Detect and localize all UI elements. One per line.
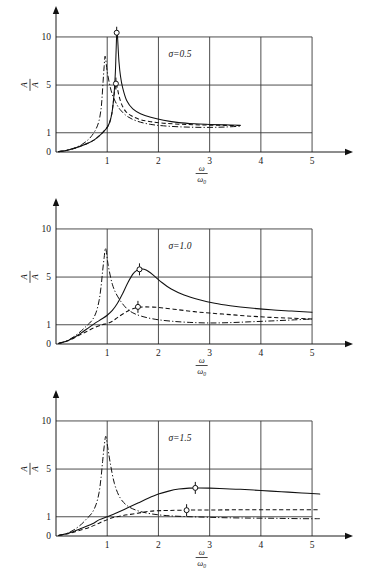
x-axis-label-denominator: ω0 xyxy=(197,366,206,377)
chart-svg: 0151012345ωω0AAσ=1.5 xyxy=(0,384,367,575)
x-tick-label-4: 4 xyxy=(258,540,263,550)
y-axis-arrow xyxy=(53,390,59,398)
y-axis-label: AA xyxy=(20,79,41,91)
x-axis-label: ωω0 xyxy=(196,163,208,185)
y-axis-label-numerator: A xyxy=(20,81,30,88)
x-axis-arrow xyxy=(345,341,353,347)
sigma-annotation: σ=1.0 xyxy=(168,241,191,251)
curve-solid xyxy=(59,32,241,151)
x-tick-label-2: 2 xyxy=(156,348,161,358)
x-tick-label-5: 5 xyxy=(310,348,315,358)
sigma-annotation: σ=1.5 xyxy=(168,433,191,443)
chart-panel-sigma-1.5: 0151012345ωω0AAσ=1.5 xyxy=(0,384,367,575)
x-tick-label-5: 5 xyxy=(310,156,315,166)
marker-point-1 xyxy=(184,508,189,513)
y-axis-label: AA xyxy=(20,271,41,283)
x-tick-labels: 12345 xyxy=(105,156,315,166)
y-tick-labels: 01510 xyxy=(42,32,52,157)
markers-group xyxy=(184,482,198,516)
x-axis-label: ωω0 xyxy=(196,547,208,569)
y-axis-label-numerator: A xyxy=(20,465,30,472)
y-axis-label-numerator: A xyxy=(20,273,30,280)
x-tick-label-3: 3 xyxy=(207,540,212,550)
curves-group xyxy=(59,436,320,535)
y-tick-label-10: 10 xyxy=(42,224,52,234)
y-tick-label-1: 1 xyxy=(46,320,51,330)
curve-dash-dot xyxy=(59,56,241,151)
y-tick-label-0: 0 xyxy=(46,147,51,157)
x-axis-arrow xyxy=(345,149,353,155)
curve-dashed xyxy=(59,510,320,536)
y-axis-label-denominator: A xyxy=(30,273,40,280)
y-tick-label-10: 10 xyxy=(42,416,52,426)
y-tick-label-1: 1 xyxy=(46,128,51,138)
chart-panel-sigma-0.5: 0151012345ωω0AAσ=0.5 xyxy=(0,0,367,192)
x-axis-label-denominator: ω0 xyxy=(197,174,206,185)
x-tick-label-4: 4 xyxy=(258,348,263,358)
y-tick-label-5: 5 xyxy=(46,464,51,474)
x-tick-label-3: 3 xyxy=(207,156,212,166)
marker-point-1 xyxy=(135,304,140,309)
y-axis-arrow xyxy=(53,198,59,206)
x-axis-label-subscript: 0 xyxy=(203,371,206,377)
y-tick-labels: 01510 xyxy=(42,224,52,349)
marker-point-0 xyxy=(137,267,142,272)
x-axis-label-subscript: 0 xyxy=(203,179,206,185)
y-tick-label-0: 0 xyxy=(46,531,51,541)
y-tick-label-5: 5 xyxy=(46,272,51,282)
x-tick-label-2: 2 xyxy=(156,156,161,166)
chart-svg: 0151012345ωω0AAσ=0.5 xyxy=(0,0,367,192)
y-tick-label-0: 0 xyxy=(46,339,51,349)
x-axis-arrow xyxy=(345,533,353,539)
curves-group xyxy=(59,248,313,343)
marker-point-0 xyxy=(114,30,119,35)
x-tick-label-3: 3 xyxy=(207,348,212,358)
x-tick-labels: 12345 xyxy=(105,348,315,358)
x-tick-label-1: 1 xyxy=(105,156,110,166)
marker-point-1 xyxy=(113,81,118,86)
x-axis-label-subscript: 0 xyxy=(203,563,206,569)
curve-solid xyxy=(59,269,313,344)
x-axis-label-numerator: ω xyxy=(199,547,205,557)
y-tick-label-10: 10 xyxy=(42,32,52,42)
x-tick-label-1: 1 xyxy=(105,540,110,550)
x-tick-label-1: 1 xyxy=(105,348,110,358)
y-tick-label-5: 5 xyxy=(46,80,51,90)
x-tick-label-2: 2 xyxy=(156,540,161,550)
figure-root: 0151012345ωω0AAσ=0.5 0151012345ωω0AAσ=1.… xyxy=(0,0,367,575)
y-tick-label-1: 1 xyxy=(46,512,51,522)
y-axis-arrow xyxy=(53,6,59,14)
sigma-annotation: σ=0.5 xyxy=(168,49,191,59)
x-axis-label-numerator: ω xyxy=(199,355,205,365)
x-tick-labels: 12345 xyxy=(105,540,315,550)
marker-point-0 xyxy=(193,485,198,490)
x-tick-label-4: 4 xyxy=(258,156,263,166)
y-tick-labels: 01510 xyxy=(42,416,52,541)
chart-panel-sigma-1.0: 0151012345ωω0AAσ=1.0 xyxy=(0,192,367,384)
x-axis-label-numerator: ω xyxy=(199,163,205,173)
chart-svg: 0151012345ωω0AAσ=1.0 xyxy=(0,192,367,384)
curves-group xyxy=(59,32,241,151)
x-axis-label-denominator: ω0 xyxy=(197,558,206,569)
x-axis-label: ωω0 xyxy=(196,355,208,377)
x-tick-label-5: 5 xyxy=(310,540,315,550)
y-axis-label-denominator: A xyxy=(30,81,40,88)
y-axis-label: AA xyxy=(20,463,41,475)
y-axis-label-denominator: A xyxy=(30,465,40,472)
